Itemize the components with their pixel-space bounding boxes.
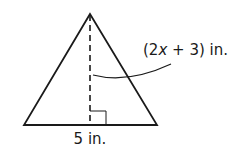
height-label-leader-curve [93,64,171,78]
height-label-suffix: + 3) in. [167,41,228,59]
right-angle-marker [90,111,106,125]
triangle-diagram: (2x + 3) in. 5 in. [0,0,250,152]
height-label-prefix: (2 [143,41,158,59]
height-label-variable: x [157,41,167,59]
base-label: 5 in. [74,130,107,148]
height-label: (2x + 3) in. [143,41,228,59]
